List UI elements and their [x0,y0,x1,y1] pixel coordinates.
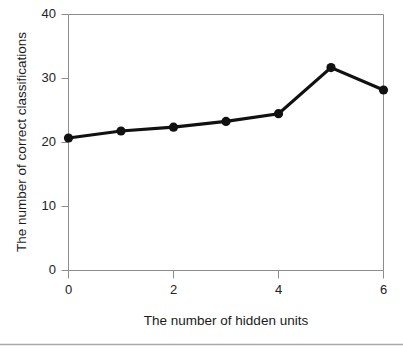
chart-canvas: 40 30 20 10 0 0 2 4 6 The number of hidd… [0,0,403,349]
x-axis-tick-labels: 0 2 4 6 [65,282,387,297]
y-tick-label-20: 20 [42,134,56,149]
x-axis-title: The number of hidden units [144,313,309,328]
data-point [64,133,73,142]
y-tick-label-0: 0 [49,262,56,277]
data-point [221,117,230,126]
y-axis-ticks [62,15,69,271]
x-tick-label-6: 6 [380,282,387,297]
y-tick-label-10: 10 [42,198,56,213]
data-point [169,123,178,132]
chart-figure: 40 30 20 10 0 0 2 4 6 The number of hidd… [0,0,403,349]
data-point [116,126,125,135]
y-tick-label-40: 40 [42,6,56,21]
x-tick-label-0: 0 [65,282,72,297]
data-point [379,85,388,94]
x-tick-label-2: 2 [170,282,177,297]
y-axis-title: The number of correct classifications [14,32,29,252]
y-axis-tick-labels: 40 30 20 10 0 [42,6,56,277]
x-tick-label-4: 4 [275,282,282,297]
x-axis-ticks [69,271,384,279]
y-tick-label-30: 30 [42,70,56,85]
data-point [326,63,335,72]
data-line-series-0 [69,68,384,138]
data-point [274,109,283,118]
